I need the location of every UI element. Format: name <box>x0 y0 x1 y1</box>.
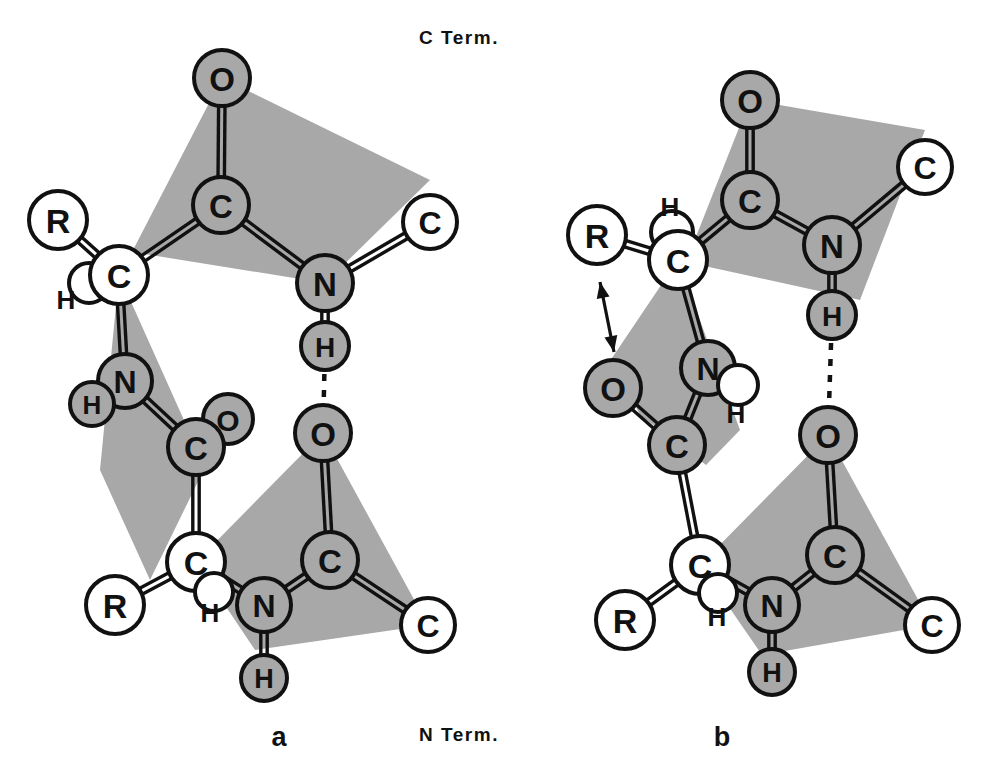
hydrogen-bond <box>829 343 831 403</box>
atom-b-O1-o: O <box>722 72 778 128</box>
atom-b-R1-r: R <box>568 206 626 264</box>
motion-arrow <box>597 282 617 352</box>
atom-label: C <box>418 205 441 241</box>
atom-label: H <box>822 301 842 332</box>
atom-label: C <box>107 257 132 295</box>
atom-label: O <box>815 418 841 455</box>
arrow-head-end <box>604 335 617 352</box>
free-atom-label-b-0: H <box>661 192 680 222</box>
atom-a-O1-o: O <box>194 50 250 106</box>
free-atom-label-b-2: H <box>708 602 727 632</box>
atom-a-N1-n: N <box>297 255 353 311</box>
arrows-layer <box>597 282 617 352</box>
panel-a-label: a <box>271 722 286 753</box>
atom-label: H <box>315 332 335 363</box>
atom-b-N3-n: N <box>745 578 799 632</box>
atom-label: N <box>760 588 783 624</box>
atom-label: C <box>823 538 847 575</box>
atom-a-O2-o: O <box>295 405 351 461</box>
atom-label: C <box>416 608 439 644</box>
atom-label: C <box>913 150 936 186</box>
free-atom-label-a-0: H <box>57 285 76 315</box>
bond-line <box>679 471 692 539</box>
atom-a-C1-c: C <box>193 177 249 233</box>
atom-label: N <box>113 364 136 400</box>
atom-label: N <box>252 588 275 624</box>
atom-label: C <box>665 428 689 465</box>
free-atom-label-a-1: H <box>201 598 220 628</box>
atom-b-Cterm2-c: C <box>905 598 959 652</box>
atom-label: R <box>103 587 128 625</box>
atom-a-R1-r: R <box>29 191 87 249</box>
atom-b-CA1-c: C <box>649 231 707 289</box>
atom-label: H <box>83 390 102 420</box>
atom-label: O <box>209 61 235 98</box>
atom-a-H3-h: H <box>241 655 287 701</box>
atom-label: C <box>920 608 943 644</box>
atom-label: O <box>310 416 336 453</box>
atom-b-O2s-o: O <box>585 360 641 416</box>
atom-label: C <box>738 183 762 220</box>
hydrogen-bond <box>324 374 325 401</box>
arrow-head-start <box>597 282 610 299</box>
atom-label: C <box>184 430 208 467</box>
atom-label: N <box>696 351 719 387</box>
atom-label: H <box>762 658 782 688</box>
atom-b-R2-r: R <box>596 591 654 649</box>
atom-label: R <box>613 602 638 640</box>
atom-label: O <box>600 371 626 408</box>
atom-a-CA1-c: C <box>90 246 148 304</box>
atom-b-C3-c: C <box>807 527 863 583</box>
atom-label: C <box>666 242 691 280</box>
atom-label: H <box>254 664 274 694</box>
bond-line <box>224 104 225 179</box>
atom-a-N3-n: N <box>237 578 291 632</box>
atom-label: N <box>820 228 844 265</box>
n-terminus-label: N Term. <box>419 724 499 746</box>
atom-label: N <box>313 266 337 303</box>
atom-a-H1-h: H <box>301 322 349 370</box>
free-atom-label-b-1: H <box>727 399 746 429</box>
atom-a-Cterm1-c: C <box>403 195 457 249</box>
bond-line <box>685 470 698 538</box>
atom-a-Cterm2-c: C <box>401 598 455 652</box>
atom-b-Cterm1-c: C <box>898 140 952 194</box>
atom-b-O3-o: O <box>800 407 856 463</box>
bond-b-C2-b-CA2 <box>679 470 698 539</box>
atom-label: C <box>318 543 342 580</box>
panel-b-label: b <box>714 722 731 753</box>
atom-b-N1-n: N <box>804 217 860 273</box>
atom-a-H2-h: H <box>70 382 114 426</box>
bond-line <box>218 104 219 179</box>
atom-b-C2-c: C <box>649 417 705 473</box>
atom-label: R <box>585 217 610 255</box>
atom-b-H1-h: H <box>808 291 856 339</box>
atom-a-C3-c: C <box>302 532 358 588</box>
peptide-backbone-diagram: OCNCHRCNHOCCROCNHCOCNCHRCNOCCROCNHC HHHH… <box>0 0 988 783</box>
atom-label: R <box>46 202 71 240</box>
atom-a-R2-r: R <box>86 576 144 634</box>
atom-b-H3-h: H <box>749 649 795 695</box>
atom-a-C2-c: C <box>168 419 224 475</box>
atom-b-C1-c: C <box>722 172 778 228</box>
atom-label: O <box>737 83 763 120</box>
c-terminus-label: C Term. <box>419 27 499 49</box>
atom-label: C <box>209 188 233 225</box>
